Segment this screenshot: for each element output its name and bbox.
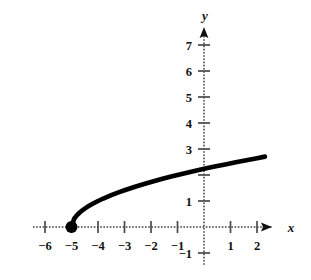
x-tick-label: −2 [144, 239, 157, 253]
x-tick-label: −6 [38, 239, 51, 253]
plot-background [0, 0, 311, 280]
y-tick-label: 6 [186, 65, 192, 79]
x-tick-label: 1 [227, 239, 233, 253]
y-tick-label: −1 [179, 247, 192, 261]
y-tick-label: 3 [186, 143, 192, 157]
y-tick-label: 4 [186, 117, 193, 131]
curve-endpoint-dot [66, 221, 78, 233]
y-tick-label: 7 [186, 39, 192, 53]
x-tick-label: 2 [254, 239, 260, 253]
graph-figure: −6−5−4−3−2−112 134567−1 x y [0, 0, 311, 280]
y-tick-label: 1 [186, 195, 192, 209]
x-axis-label: x [287, 220, 295, 235]
y-axis-label: y [200, 8, 208, 23]
x-tick-label: −3 [118, 239, 131, 253]
x-tick-label: −4 [91, 239, 105, 253]
coordinate-plane-plot: −6−5−4−3−2−112 134567−1 x y [0, 0, 311, 280]
x-axis-tick-labels: −6−5−4−3−2−112 [38, 239, 260, 253]
y-tick-label: 5 [186, 91, 192, 105]
x-tick-label: −5 [65, 239, 78, 253]
